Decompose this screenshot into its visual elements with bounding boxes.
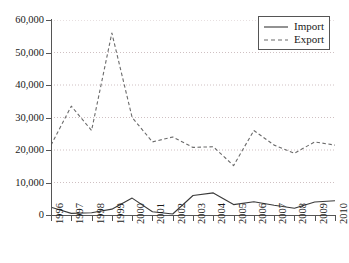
chart-legend: Import Export [258,16,330,50]
x-axis-tick [294,216,295,221]
x-axis-tick-label: 2005 [238,203,248,224]
x-axis-tick [315,216,316,221]
x-axis-tick-label: 1997 [75,203,85,224]
x-axis-tick [152,216,153,221]
x-axis-tick-label: 1996 [55,203,65,224]
x-axis-tick [173,216,174,221]
y-axis-tick-label: 60,000 [0,15,44,25]
y-axis-tick [46,85,51,86]
x-axis-tick [51,216,52,221]
legend-label-import: Import [294,21,324,32]
y-axis-tick-label: 0 [0,210,44,220]
y-axis-tick [46,53,51,54]
x-axis-tick [193,216,194,221]
x-axis-tick [274,216,275,221]
y-axis-tick [46,150,51,151]
legend-label-export: Export [294,34,324,45]
x-axis-tick-label: 1998 [96,203,106,224]
x-axis-tick-label: 2006 [258,203,268,224]
legend-item-import: Import [263,20,324,33]
x-axis-tick-label: 2008 [298,203,308,224]
y-axis-tick-label: 20,000 [0,145,44,155]
series-line-import [51,193,335,214]
y-axis-line [51,19,52,216]
x-axis-tick [71,216,72,221]
x-axis-tick-label: 2010 [339,203,349,224]
x-axis-tick [335,216,336,221]
y-axis-tick [46,20,51,21]
x-axis-tick-label: 2009 [319,203,329,224]
legend-swatch-solid-icon [263,22,289,32]
y-axis-tick-label: 30,000 [0,113,44,123]
x-axis-tick-label: 2001 [156,203,166,224]
y-axis-tick-label: 40,000 [0,80,44,90]
x-axis-tick [234,216,235,221]
x-axis-tick-label: 2004 [217,203,227,224]
y-axis-tick [46,118,51,119]
x-axis-tick-label: 2007 [278,203,288,224]
x-axis-tick-label: 2003 [197,203,207,224]
x-axis-tick-label: 2002 [177,203,187,224]
x-axis-tick-label: 2000 [136,203,146,224]
y-axis-tick-label: 50,000 [0,48,44,58]
y-axis-tick [46,183,51,184]
legend-item-export: Export [263,33,324,46]
x-axis-tick [254,216,255,221]
line-chart: 010,00020,00030,00040,00050,00060,000 19… [0,0,349,263]
y-axis-tick-label: 10,000 [0,178,44,188]
x-axis-tick [112,216,113,221]
x-axis-tick [92,216,93,221]
x-axis-tick [132,216,133,221]
x-axis-tick-label: 1999 [116,203,126,224]
legend-swatch-dashed-icon [263,35,289,45]
series-lines [51,33,335,214]
x-axis-tick [213,216,214,221]
